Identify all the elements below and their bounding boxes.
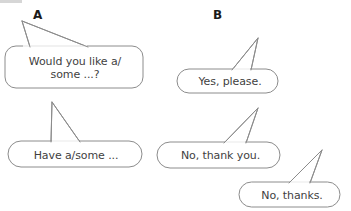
speech-bubble-text: Yes, please. (180, 70, 280, 93)
top-left-artifact (0, 0, 22, 3)
speech-bubble-yes-please: Yes, please. (172, 33, 287, 96)
speech-bubble-text: Have a/some ... (12, 142, 140, 168)
speech-bubble-exercise: A B Would you like a/ some ...? Have a/s… (0, 0, 351, 211)
column-label-b: B (213, 9, 222, 21)
speech-bubble-have-a-some: Have a/some ... (2, 98, 148, 172)
speech-bubble-no-thanks: No, thanks. (234, 146, 347, 209)
speech-bubble-text: No, thanks. (242, 183, 342, 207)
speech-bubble-would-you-like: Would you like a/ some ...? (0, 16, 150, 94)
speech-bubble-text: Would you like a/ some ...? (8, 48, 142, 88)
